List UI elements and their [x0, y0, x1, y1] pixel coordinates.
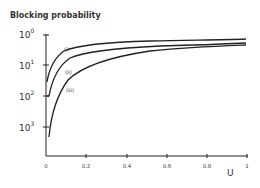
series-iii-line [49, 45, 246, 137]
plot-area [0, 0, 260, 188]
x-tick-label: 0.4 [123, 163, 132, 169]
y-tick-label: 101 [19, 58, 34, 71]
y-tick-label: 100 [19, 27, 34, 40]
series-i-label: (i) [64, 46, 69, 52]
series-iii-label: (iii) [66, 87, 74, 93]
x-tick-label: 0.8 [203, 163, 212, 169]
x-tick-label: 0 [44, 163, 48, 169]
x-tick-label: 1 [245, 163, 249, 169]
x-axis-label: U [227, 168, 234, 178]
series-i-line [47, 39, 246, 82]
series-ii-label: (ii) [65, 69, 72, 75]
y-tick-label: 102 [19, 89, 34, 102]
y-tick-label: 103 [19, 120, 34, 133]
x-tick-label: 0.2 [82, 163, 91, 169]
x-tick-label: 0.6 [163, 163, 172, 169]
